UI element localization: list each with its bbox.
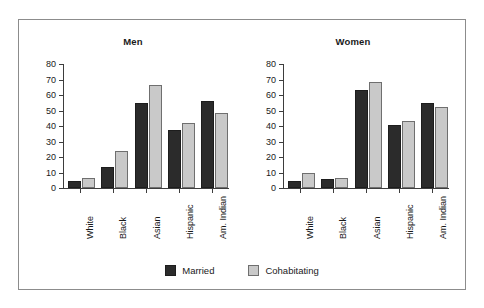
bar-white-cohabitating [302, 173, 315, 188]
y-axis-line-men [63, 64, 64, 189]
x-tick [80, 189, 81, 193]
x-tick-label-am-indian: Am. Indian [439, 196, 448, 239]
y-tick-label: 30 [266, 137, 276, 146]
y-tick: 80 [279, 64, 283, 65]
y-tick: 50 [59, 111, 63, 112]
bar-asian-cohabitating [149, 85, 162, 188]
y-tick: 50 [279, 111, 283, 112]
x-tick-label-black: Black [119, 217, 128, 239]
y-tick-label: 0 [51, 184, 56, 193]
y-tick: 80 [59, 64, 63, 65]
bar-am-indian-married [201, 101, 214, 188]
legend-item-married: Married [165, 265, 214, 276]
bar-am-indian-cohabitating [215, 113, 228, 188]
bar-am-indian-cohabitating [435, 107, 448, 188]
plot-area-women: 01020304050607080WhiteBlackAsianHispanic… [283, 64, 449, 189]
y-tick: 30 [279, 142, 283, 143]
y-tick: 70 [279, 80, 283, 81]
y-tick-label: 60 [266, 91, 276, 100]
panel-title-men: Men [21, 36, 245, 47]
y-tick: 70 [59, 80, 63, 81]
bar-asian-cohabitating [369, 82, 382, 188]
y-tick: 0 [279, 188, 283, 189]
panel-title-women: Women [241, 36, 465, 47]
bar-hispanic-cohabitating [402, 121, 415, 188]
x-tick [333, 189, 334, 193]
y-tick: 60 [279, 95, 283, 96]
figure-frame: Men 01020304050607080WhiteBlackAsianHisp… [18, 19, 466, 290]
y-tick-label: 40 [46, 122, 56, 131]
bar-am-indian-married [421, 103, 434, 188]
y-tick: 40 [59, 126, 63, 127]
x-tick [300, 189, 301, 193]
legend-label-married: Married [182, 265, 214, 276]
y-tick-label: 80 [46, 60, 56, 69]
panel-women: Women 01020304050607080WhiteBlackAsianHi… [241, 20, 465, 266]
y-tick-label: 10 [266, 168, 276, 177]
y-tick-label: 70 [46, 75, 56, 84]
x-tick-label-hispanic: Hispanic [186, 204, 195, 239]
y-tick: 30 [59, 142, 63, 143]
y-tick: 60 [59, 95, 63, 96]
bar-asian-married [355, 90, 368, 188]
y-tick-label: 0 [271, 184, 276, 193]
y-tick: 20 [279, 157, 283, 158]
bar-black-cohabitating [115, 151, 128, 188]
plot-area-men: 01020304050607080WhiteBlackAsianHispanic… [63, 64, 229, 189]
bar-black-cohabitating [335, 178, 348, 188]
legend-item-cohabitating: Cohabitating [248, 265, 318, 276]
legend-swatch-cohabitating-icon [248, 265, 259, 276]
bar-white-married [68, 181, 81, 188]
x-tick [399, 189, 400, 193]
y-axis-line-women [283, 64, 284, 189]
y-tick-label: 50 [266, 106, 276, 115]
x-tick-label-white: White [86, 216, 95, 239]
legend-label-cohabitating: Cohabitating [265, 265, 318, 276]
y-tick-label: 40 [266, 122, 276, 131]
chart-legend: Married Cohabitating [19, 265, 465, 276]
bar-asian-married [135, 103, 148, 188]
x-tick [146, 189, 147, 193]
bar-hispanic-married [388, 125, 401, 188]
bar-hispanic-cohabitating [182, 123, 195, 188]
bar-black-married [101, 167, 114, 188]
y-tick-label: 60 [46, 91, 56, 100]
legend-swatch-married-icon [165, 265, 176, 276]
y-tick-label: 20 [46, 153, 56, 162]
y-tick-label: 70 [266, 75, 276, 84]
y-tick: 10 [59, 173, 63, 174]
y-tick: 40 [279, 126, 283, 127]
y-tick-label: 10 [46, 168, 56, 177]
y-tick: 20 [59, 157, 63, 158]
y-tick: 0 [59, 188, 63, 189]
y-tick-label: 30 [46, 137, 56, 146]
x-tick-label-white: White [306, 216, 315, 239]
y-tick-label: 20 [266, 153, 276, 162]
x-tick-label-am-indian: Am. Indian [219, 196, 228, 239]
x-tick [432, 189, 433, 193]
bar-white-married [288, 181, 301, 188]
y-tick: 10 [279, 173, 283, 174]
x-tick-label-hispanic: Hispanic [406, 204, 415, 239]
panel-men: Men 01020304050607080WhiteBlackAsianHisp… [21, 20, 245, 266]
x-tick-label-black: Black [339, 217, 348, 239]
bar-white-cohabitating [82, 178, 95, 188]
bar-hispanic-married [168, 130, 181, 188]
x-tick-label-asian: Asian [373, 216, 382, 239]
x-tick [113, 189, 114, 193]
x-tick [212, 189, 213, 193]
x-tick [179, 189, 180, 193]
y-tick-label: 50 [46, 106, 56, 115]
bar-black-married [321, 179, 334, 188]
x-tick [366, 189, 367, 193]
x-tick-label-asian: Asian [153, 216, 162, 239]
y-tick-label: 80 [266, 60, 276, 69]
